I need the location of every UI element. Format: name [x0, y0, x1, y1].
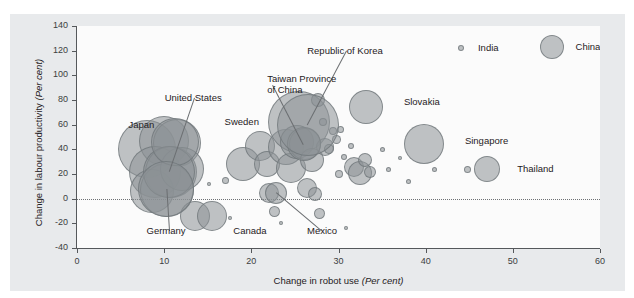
x-tick-mark [251, 249, 252, 253]
bubble-point[interactable] [406, 179, 411, 184]
y-tick-mark [72, 248, 76, 249]
x-tick-mark [426, 249, 427, 253]
bubble-point[interactable] [228, 216, 232, 220]
x-tick-mark [77, 249, 78, 253]
bubble-chart-figure: JapanUnited StatesSwedenGermanyCanadaTai… [0, 0, 634, 298]
x-tick-mark [600, 249, 601, 253]
bubble-point[interactable] [335, 170, 343, 178]
bubble-point[interactable] [474, 156, 500, 182]
x-axis-title: Change in robot use (Per cent) [77, 275, 600, 286]
y-tick-mark [72, 100, 76, 101]
x-tick-label: 20 [231, 256, 271, 266]
bubble-point[interactable] [279, 221, 283, 225]
x-tick-label: 0 [57, 256, 97, 266]
x-axis-title-text: Change in robot use [274, 275, 360, 286]
bubble-point[interactable] [222, 177, 229, 184]
y-tick-mark [72, 26, 76, 27]
bubble-point[interactable] [432, 167, 437, 172]
point-label-mexico: Mexico [307, 225, 337, 236]
bubble-point[interactable] [404, 124, 444, 164]
x-tick-label: 60 [580, 256, 620, 266]
y-axis-title-units: (Per cent) [33, 59, 44, 101]
x-tick-label: 50 [493, 256, 533, 266]
y-tick-mark [72, 223, 76, 224]
y-tick-mark [72, 75, 76, 76]
bubble-point[interactable] [364, 166, 376, 178]
bubble-canada[interactable] [197, 201, 227, 231]
bubble-point[interactable] [348, 143, 354, 149]
x-tick-label: 10 [144, 256, 184, 266]
plot-area: JapanUnited StatesSwedenGermanyCanadaTai… [77, 26, 600, 248]
y-tick-mark [72, 125, 76, 126]
bubble-point[interactable] [380, 147, 385, 152]
bubble-point[interactable] [386, 167, 391, 172]
x-tick-mark [339, 249, 340, 253]
y-axis-title: Change in labour productivity (Per cent) [33, 28, 44, 258]
point-label-singapore: Singapore [465, 135, 508, 146]
point-label-china: China [576, 41, 600, 52]
point-label-republic-of-korea: Republic of Korea [307, 45, 383, 56]
point-label-canada: Canada [233, 225, 266, 236]
y-tick-mark [72, 174, 76, 175]
y-tick-mark [72, 199, 76, 200]
bubble-point[interactable] [314, 208, 325, 219]
bubble-point[interactable] [308, 187, 322, 201]
y-tick-mark [72, 51, 76, 52]
bubble-point[interactable] [269, 206, 280, 217]
bubble-point[interactable] [540, 35, 564, 59]
y-tick-mark [72, 149, 76, 150]
point-label-united-states: United States [165, 92, 222, 103]
point-label-japan: Japan [129, 119, 155, 130]
bubble-point[interactable] [458, 45, 464, 51]
x-tick-mark [513, 249, 514, 253]
x-tick-mark [164, 249, 165, 253]
bubble-point[interactable] [464, 166, 471, 173]
x-axis-title-units: (Per cent) [362, 275, 404, 286]
bubble-point[interactable] [341, 154, 347, 160]
bubble-point[interactable] [398, 156, 402, 160]
point-label-india: India [478, 42, 499, 53]
bubble-republic-of-korea[interactable] [277, 94, 339, 156]
point-label-slovakia: Slovakia [404, 96, 440, 107]
y-axis-line [76, 26, 77, 249]
point-label-sweden: Sweden [225, 116, 259, 127]
point-label-taiwan-province-of-china: Taiwan Provinceof China [267, 73, 336, 95]
bubble-point[interactable] [207, 182, 211, 186]
x-tick-label: 40 [406, 256, 446, 266]
bubble-point[interactable] [344, 226, 348, 230]
point-label-thailand: Thailand [517, 163, 553, 174]
bubble-point[interactable] [349, 90, 383, 124]
point-label-germany: Germany [147, 225, 186, 236]
x-tick-label: 30 [319, 256, 359, 266]
y-axis-title-text: Change in labour productivity [33, 103, 44, 226]
